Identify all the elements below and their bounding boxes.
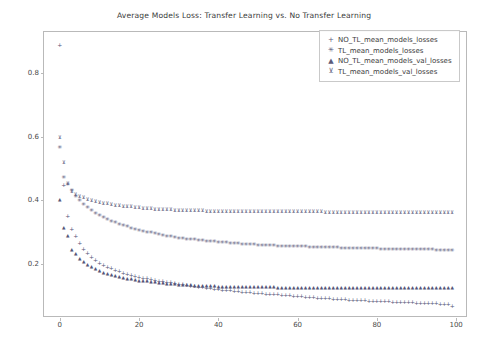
data-point: ▲ bbox=[244, 285, 247, 290]
legend-marker-icon: ⊻ bbox=[324, 68, 338, 75]
data-point: + bbox=[450, 303, 455, 309]
data-point: ▲ bbox=[141, 279, 144, 284]
data-point: ▲ bbox=[280, 286, 283, 291]
data-point: ▲ bbox=[129, 277, 132, 282]
data-point: ▲ bbox=[423, 286, 426, 291]
legend-item: ▲NO_TL_mean_models_val_losses bbox=[324, 56, 452, 67]
data-point: ▲ bbox=[339, 286, 342, 291]
data-point: ▲ bbox=[363, 286, 366, 291]
y-tick-mark bbox=[41, 200, 44, 201]
legend-marker-icon: ▲ bbox=[324, 58, 338, 65]
data-point: ▲ bbox=[236, 285, 239, 290]
data-point: ▲ bbox=[102, 270, 105, 275]
data-point: ▲ bbox=[411, 286, 414, 291]
data-point: ⊻ bbox=[66, 180, 70, 185]
data-point: ⊻ bbox=[450, 210, 454, 215]
data-point: ▲ bbox=[240, 285, 243, 290]
y-tick-label: 0.8 bbox=[28, 69, 39, 77]
data-point: ▲ bbox=[335, 286, 338, 291]
figure: Average Models Loss: Transfer Learning v… bbox=[0, 0, 488, 349]
data-point: ▲ bbox=[304, 286, 307, 291]
chart-legend: +NO_TL_mean_models_losses✳TL_mean_models… bbox=[319, 30, 460, 82]
data-point: ▲ bbox=[427, 286, 430, 291]
data-point: ▲ bbox=[292, 286, 295, 291]
data-point: ▲ bbox=[375, 286, 378, 291]
data-point: ▲ bbox=[252, 285, 255, 290]
data-point: ▲ bbox=[343, 286, 346, 291]
data-point: ▲ bbox=[367, 286, 370, 291]
data-point: ▲ bbox=[446, 286, 449, 291]
y-tick-label: 0.6 bbox=[28, 133, 39, 141]
x-tick-mark bbox=[60, 318, 61, 321]
legend-label: TL_mean_models_val_losses bbox=[338, 68, 437, 76]
data-point: ▲ bbox=[248, 285, 251, 290]
legend-item: ⊻TL_mean_models_val_losses bbox=[324, 67, 452, 78]
data-point: ▲ bbox=[189, 283, 192, 288]
data-point: ▲ bbox=[82, 260, 85, 265]
legend-marker-icon: + bbox=[324, 37, 338, 44]
data-point: ▲ bbox=[442, 286, 445, 291]
chart-title: Average Models Loss: Transfer Learning v… bbox=[0, 11, 488, 20]
data-point: ▲ bbox=[58, 198, 61, 203]
data-point: ▲ bbox=[133, 278, 136, 283]
data-point: ▲ bbox=[431, 286, 434, 291]
x-tick-label: 20 bbox=[135, 321, 144, 329]
data-point: ▲ bbox=[439, 286, 442, 291]
data-point: ▲ bbox=[450, 286, 453, 291]
data-point: ▲ bbox=[90, 265, 93, 270]
x-tick-label: 80 bbox=[372, 321, 381, 329]
data-point: ▲ bbox=[74, 252, 77, 257]
data-point: ▲ bbox=[169, 282, 172, 287]
data-point: ▲ bbox=[137, 278, 140, 283]
data-point: ▲ bbox=[157, 280, 160, 285]
data-point: ▲ bbox=[379, 286, 382, 291]
data-point: ▲ bbox=[264, 285, 267, 290]
y-tick-mark bbox=[41, 73, 44, 74]
data-point: ▲ bbox=[185, 283, 188, 288]
data-point: ▲ bbox=[328, 286, 331, 291]
x-tick-mark bbox=[377, 318, 378, 321]
data-point: ⊻ bbox=[58, 134, 62, 139]
data-point: ▲ bbox=[181, 283, 184, 288]
data-point: ✳ bbox=[450, 248, 455, 254]
data-point: ▲ bbox=[308, 286, 311, 291]
data-point: ▲ bbox=[110, 273, 113, 278]
data-point: ▲ bbox=[213, 284, 216, 289]
data-point: ▲ bbox=[217, 284, 220, 289]
data-point: ▲ bbox=[419, 286, 422, 291]
data-point: ▲ bbox=[125, 276, 128, 281]
legend-marker-icon: ✳ bbox=[324, 47, 338, 54]
data-point: ▲ bbox=[62, 226, 65, 231]
data-point: ✳ bbox=[58, 145, 63, 151]
x-tick-label: 0 bbox=[58, 321, 62, 329]
x-tick-label: 100 bbox=[449, 321, 462, 329]
data-point: ▲ bbox=[403, 286, 406, 291]
data-point: ▲ bbox=[78, 257, 81, 262]
y-tick-label: 0.4 bbox=[28, 196, 39, 204]
legend-label: NO_TL_mean_models_val_losses bbox=[338, 57, 452, 65]
data-point: ▲ bbox=[94, 267, 97, 272]
data-point: ▲ bbox=[177, 282, 180, 287]
data-point: ▲ bbox=[355, 286, 358, 291]
data-point: ▲ bbox=[332, 286, 335, 291]
data-point: ▲ bbox=[122, 276, 125, 281]
data-point: ▲ bbox=[70, 248, 73, 253]
data-point: ▲ bbox=[351, 286, 354, 291]
data-point: ▲ bbox=[399, 286, 402, 291]
data-point: + bbox=[65, 213, 70, 219]
data-point: ▲ bbox=[296, 286, 299, 291]
data-point: ▲ bbox=[66, 234, 69, 239]
data-point: ▲ bbox=[347, 286, 350, 291]
x-tick-label: 60 bbox=[293, 321, 302, 329]
legend-item: +NO_TL_mean_models_losses bbox=[324, 35, 452, 46]
data-point: ▲ bbox=[145, 279, 148, 284]
legend-label: NO_TL_mean_models_losses bbox=[338, 36, 438, 44]
data-point: ▲ bbox=[435, 286, 438, 291]
data-point: ▲ bbox=[106, 272, 109, 277]
data-point: ▲ bbox=[197, 283, 200, 288]
legend-label: TL_mean_models_losses bbox=[338, 47, 423, 55]
data-point: + bbox=[57, 42, 62, 48]
data-point: ▲ bbox=[316, 286, 319, 291]
data-point: ▲ bbox=[161, 281, 164, 286]
legend-item: ✳TL_mean_models_losses bbox=[324, 46, 452, 57]
